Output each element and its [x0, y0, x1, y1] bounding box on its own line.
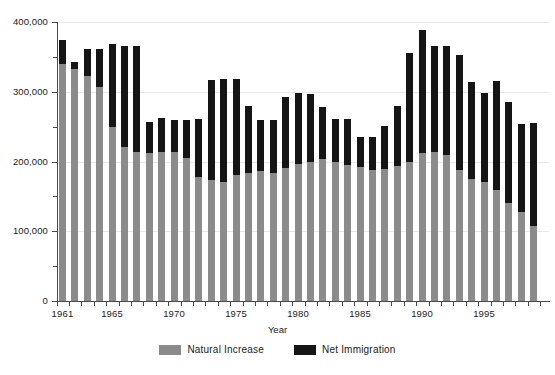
legend-item-natural-increase: Natural Increase — [159, 344, 264, 355]
x-tick — [305, 301, 306, 306]
x-tick — [218, 301, 219, 306]
x-axis-label: 1990 — [411, 308, 433, 319]
x-tick — [329, 301, 330, 306]
x-tick — [441, 301, 442, 306]
x-tick — [57, 301, 58, 306]
x-tick — [466, 301, 467, 306]
x-tick — [81, 301, 82, 306]
x-axis-label: 1975 — [225, 308, 247, 319]
x-axis-label: 1970 — [163, 308, 185, 319]
x-tick — [255, 301, 256, 306]
legend-label: Net Immigration — [322, 344, 396, 355]
legend-item-net-immigration: Net Immigration — [294, 344, 396, 355]
chart-figure: 0100,000200,000300,000400,000 1961196519… — [0, 0, 555, 375]
x-tick — [404, 301, 405, 306]
x-tick — [205, 301, 206, 306]
x-tick — [379, 301, 380, 306]
x-tick — [243, 301, 244, 306]
x-tick — [317, 301, 318, 306]
x-tick — [528, 301, 529, 306]
x-tick — [453, 301, 454, 306]
chart-legend: Natural IncreaseNet Immigration — [0, 344, 555, 355]
x-axis-title: Year — [0, 324, 555, 335]
x-axis-label: 1985 — [349, 308, 371, 319]
x-tick — [391, 301, 392, 306]
x-tick — [354, 301, 355, 306]
x-tick — [491, 301, 492, 306]
x-tick — [367, 301, 368, 306]
x-axis-label: 1995 — [473, 308, 495, 319]
x-axis-label: 1965 — [101, 308, 123, 319]
x-tick — [429, 301, 430, 306]
x-tick — [156, 301, 157, 306]
x-tick — [168, 301, 169, 306]
x-tick — [193, 301, 194, 306]
x-tick — [230, 301, 231, 306]
x-tick — [503, 301, 504, 306]
x-tick — [143, 301, 144, 306]
x-tick — [181, 301, 182, 306]
x-tick — [94, 301, 95, 306]
legend-swatch-icon — [294, 345, 316, 355]
x-tick — [478, 301, 479, 306]
x-tick — [131, 301, 132, 306]
legend-label: Natural Increase — [187, 344, 264, 355]
x-tick — [540, 301, 541, 306]
x-axis-label: 1961 — [52, 308, 74, 319]
x-tick — [267, 301, 268, 306]
x-axis-label: 1980 — [287, 308, 309, 319]
x-tick — [119, 301, 120, 306]
x-tick — [292, 301, 293, 306]
x-tick — [280, 301, 281, 306]
x-tick — [69, 301, 70, 306]
x-tick — [515, 301, 516, 306]
x-tick — [416, 301, 417, 306]
x-tick — [106, 301, 107, 306]
x-tick — [342, 301, 343, 306]
x-axis-ticks: 19611965197019751980198519901995 — [0, 0, 555, 375]
legend-swatch-icon — [159, 345, 181, 355]
